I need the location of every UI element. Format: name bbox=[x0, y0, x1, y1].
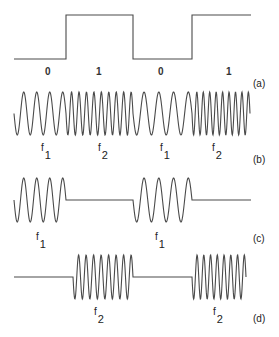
fsk-waveform bbox=[14, 92, 250, 135]
freq-label-b-2: f1 bbox=[160, 138, 169, 154]
digital-square-wave bbox=[14, 15, 251, 59]
freq-label-b-3: f2 bbox=[212, 138, 221, 154]
fsk-diagram bbox=[0, 0, 279, 337]
bit-label-2: 0 bbox=[158, 67, 164, 77]
bit-label-1: 1 bbox=[96, 67, 102, 77]
panel-label-b: (b) bbox=[253, 155, 265, 165]
bit-label-3: 1 bbox=[226, 67, 232, 77]
freq-label-b-0: f1 bbox=[41, 138, 50, 154]
freq-label-b-1: f2 bbox=[98, 138, 107, 154]
panel-label-c: (c) bbox=[253, 234, 265, 244]
bit-label-0: 0 bbox=[45, 67, 51, 77]
freq-label-c-1: f1 bbox=[155, 227, 164, 243]
freq-label-d-0: f2 bbox=[94, 302, 103, 318]
panel-label-d: (d) bbox=[253, 314, 265, 324]
ook-f1-waveform bbox=[14, 178, 251, 222]
freq-label-c-0: f1 bbox=[36, 227, 45, 243]
ook-f2-waveform bbox=[14, 255, 246, 299]
panel-label-a: (a) bbox=[253, 79, 265, 89]
freq-label-d-1: f2 bbox=[213, 302, 222, 318]
